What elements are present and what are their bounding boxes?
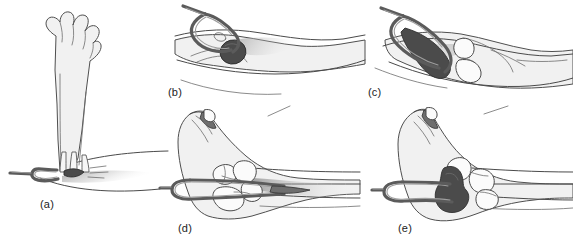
- pointer-line: [484, 106, 508, 114]
- panel-label-a: (a): [40, 198, 54, 210]
- panel-label-c: (c): [368, 86, 381, 98]
- panel-a-illustration: [0, 0, 180, 210]
- panel-e: [372, 106, 573, 232]
- panel-b: [175, 2, 365, 98]
- toe-bone-tip: [426, 107, 437, 119]
- panel-c-illustration: [375, 2, 573, 102]
- base-digit-3: [82, 155, 89, 172]
- panel-e-illustration: [372, 106, 573, 232]
- panel-b-illustration: [175, 2, 365, 98]
- panel-a: [0, 0, 180, 210]
- panel-label-d: (d): [178, 222, 192, 234]
- pale-nodule-upper: [454, 38, 474, 58]
- wire-loop-instrument: [32, 169, 58, 181]
- instrument-shaft: [381, 8, 403, 16]
- skin-contour-lower: [181, 80, 281, 94]
- panel-c: [375, 2, 573, 102]
- toe-bone-tip: [204, 109, 215, 121]
- wire-loop-highlight: [35, 171, 57, 178]
- panel-d: [160, 106, 360, 232]
- base-digit-line-a: [90, 166, 106, 168]
- panel-d-illustration: [160, 106, 360, 232]
- skin-plane-upper: [74, 151, 168, 163]
- foot-outline: [178, 112, 360, 219]
- figure-root: (a): [0, 0, 573, 248]
- instrument-shaft: [183, 6, 205, 14]
- pointer-line: [268, 106, 290, 116]
- panel-label-e: (e): [398, 222, 412, 234]
- panel-label-b: (b): [168, 86, 182, 98]
